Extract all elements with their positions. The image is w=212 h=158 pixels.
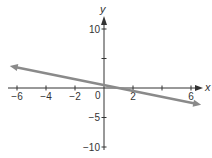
line-left-arrow-icon: [10, 64, 19, 71]
x-axis-label: x: [204, 81, 211, 93]
y-tick-label: 10: [89, 24, 101, 35]
line-graph: xy−6−4−2026−10−510: [0, 0, 212, 158]
x-axis-arrow-icon: [195, 85, 203, 91]
x-tick-label: −2: [69, 91, 81, 102]
y-tick-label: −10: [83, 142, 100, 153]
x-tick-label: −4: [40, 91, 52, 102]
line-right-arrow-icon: [193, 100, 202, 107]
x-tick-label: −6: [11, 91, 23, 102]
y-tick-label: −5: [89, 112, 101, 123]
y-axis-arrow-icon: [101, 16, 107, 25]
origin-label: 0: [95, 90, 101, 101]
y-axis-label: y: [99, 3, 107, 15]
x-tick-label: 6: [188, 91, 194, 102]
coordinate-plane: xy−6−4−2026−10−510: [0, 0, 212, 158]
